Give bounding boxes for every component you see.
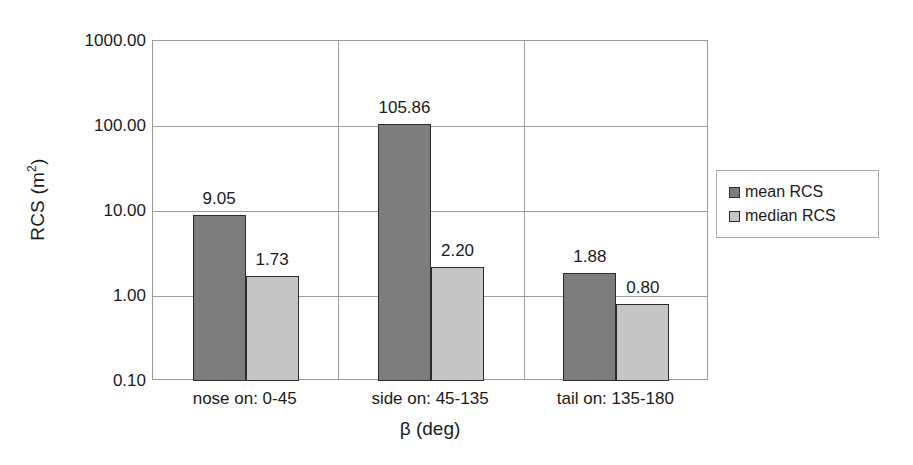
y-axis-title-close: )	[27, 159, 48, 166]
y-axis-tick-label: 1000.00	[50, 32, 146, 49]
category-separator-gridline	[524, 41, 525, 379]
x-axis-category-label: nose on: 0-45	[155, 390, 335, 408]
legend-swatch-icon	[729, 211, 740, 222]
legend-item: mean RCS	[729, 180, 868, 204]
y-axis-tick-label: 0.10	[50, 372, 146, 389]
bar-value-label: 2.20	[413, 242, 503, 259]
y-axis-tick-label: 100.00	[50, 117, 146, 134]
x-axis-category-label: tail on: 135-180	[525, 390, 705, 408]
legend-label: median RCS	[745, 208, 836, 224]
bar	[431, 267, 484, 381]
rcs-bar-chart: RCS (m2) 1000.00100.0010.001.000.10 9.05…	[0, 0, 913, 465]
plot-area: 9.051.73105.862.201.880.80	[152, 40, 708, 380]
x-axis-title: β (deg)	[152, 418, 708, 440]
category-separator-gridline	[338, 41, 339, 379]
x-axis-category-label: side on: 45-135	[340, 390, 520, 408]
y-axis-tick-label: 1.00	[50, 287, 146, 304]
bar-value-label: 1.73	[227, 251, 317, 268]
bar	[616, 304, 669, 381]
legend-label: mean RCS	[745, 184, 823, 200]
legend-swatch-icon	[729, 187, 740, 198]
bar	[246, 276, 299, 381]
y-axis-tick-labels: 1000.00100.0010.001.000.10	[46, 0, 146, 465]
y-axis-tick-label: 10.00	[50, 202, 146, 219]
bar	[193, 215, 246, 381]
y-axis-title-superscript: 2	[25, 165, 39, 172]
bar-value-label: 105.86	[360, 99, 450, 116]
legend-item: median RCS	[729, 204, 868, 228]
y-axis-title-base: RCS (m	[27, 172, 48, 241]
bar-value-label: 0.80	[598, 279, 688, 296]
bar-value-label: 9.05	[174, 190, 264, 207]
bar-value-label: 1.88	[545, 248, 635, 265]
chart-legend: mean RCSmedian RCS	[716, 170, 879, 238]
